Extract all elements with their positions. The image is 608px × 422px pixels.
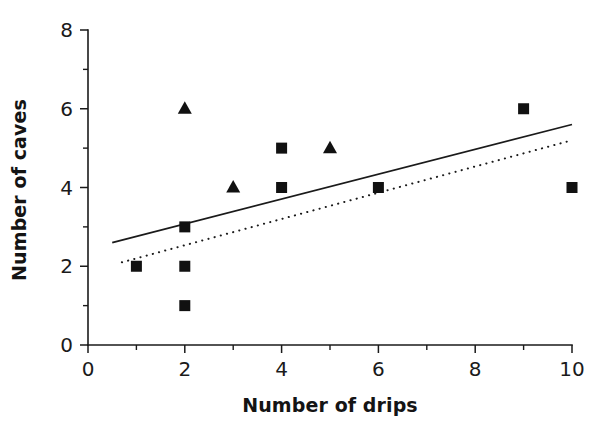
x-tick-label: 8 [469,357,482,381]
x-tick-label: 2 [178,357,191,381]
x-axis-title: Number of drips [242,394,418,416]
data-point-square [276,182,287,193]
data-point-square [179,221,190,232]
data-point-square [276,143,287,154]
data-markers [131,101,578,311]
data-point-triangle [226,180,240,192]
dotted-fit-line [122,140,572,262]
y-tick-label: 8 [60,18,73,42]
x-tick-label: 6 [372,357,385,381]
data-point-triangle [178,101,192,113]
data-point-square [131,261,142,272]
y-axis-tick-labels: 02468 [60,18,73,357]
y-tick-label: 4 [60,176,73,200]
y-axis-ticks [80,30,88,345]
x-tick-label: 10 [559,357,584,381]
data-point-triangle [323,141,337,153]
data-point-square [179,300,190,311]
trend-lines [112,125,572,263]
y-tick-label: 2 [60,254,73,278]
data-point-square [567,182,578,193]
y-tick-label: 0 [60,333,73,357]
data-point-square [179,261,190,272]
x-axis-tick-labels: 0246810 [82,357,585,381]
x-tick-label: 4 [275,357,288,381]
x-axis-ticks [88,345,572,353]
scatter-plot-figure: 02468 0246810 Number of drips Number of … [0,0,608,422]
data-point-square [518,103,529,114]
x-tick-label: 0 [82,357,95,381]
data-point-square [373,182,384,193]
plot-canvas: 02468 0246810 Number of drips Number of … [0,0,608,422]
y-tick-label: 6 [60,97,73,121]
y-axis-title: Number of caves [8,99,30,281]
